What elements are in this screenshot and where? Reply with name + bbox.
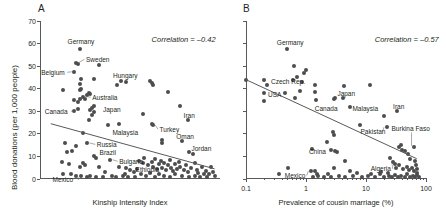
panel-a-data-point bbox=[168, 158, 172, 162]
panel-a-country-label: Bulgaria bbox=[119, 158, 143, 165]
panel-a-data-point bbox=[178, 104, 182, 108]
panel-b-x-tick-label: 0.1 bbox=[235, 185, 257, 192]
panel-a-data-point bbox=[85, 141, 89, 145]
panel-b-x-tick-minor bbox=[282, 178, 283, 180]
panel-a-y-tick bbox=[37, 111, 40, 112]
panel-b-data-point bbox=[311, 175, 315, 179]
panel-a-y-tick-label: 40 bbox=[20, 85, 36, 92]
panel-a-data-point bbox=[67, 162, 71, 166]
panel-b-data-point bbox=[332, 133, 336, 137]
panel-b-country-label: Japan bbox=[337, 90, 355, 97]
panel-b-data-point bbox=[315, 172, 319, 176]
panel-a-correlation-annotation: Correlation = –0.42 bbox=[152, 35, 216, 44]
panel-b-y-tick bbox=[243, 156, 246, 157]
panel-a-data-point bbox=[79, 77, 83, 81]
panel-b-country-label: Czech Rep. bbox=[271, 78, 305, 85]
panel-b-data-point bbox=[368, 83, 372, 87]
panel-b-data-point bbox=[337, 174, 341, 178]
panel-a-country-label: Japan bbox=[103, 106, 121, 113]
panel-a-data-point bbox=[177, 160, 181, 164]
panel-a-y-axis bbox=[40, 21, 41, 179]
panel-b-x-tick-minor bbox=[334, 178, 335, 180]
panel-a-data-point bbox=[124, 80, 128, 84]
panel-a-data-point bbox=[61, 88, 65, 92]
panel-b-correlation-annotation: Correlation = –0.57 bbox=[375, 35, 439, 44]
panel-a-data-point bbox=[162, 174, 166, 178]
panel-a-data-point bbox=[88, 174, 92, 178]
panel-a-data-point bbox=[184, 163, 188, 167]
panel-a-data-point bbox=[141, 112, 145, 116]
panel-b-data-point bbox=[343, 175, 347, 179]
panel-b-data-point bbox=[388, 156, 392, 160]
panel-a-data-point bbox=[94, 175, 98, 179]
panel-b-x-tick-minor bbox=[402, 178, 403, 180]
panel-b-data-point bbox=[262, 99, 266, 103]
panel-a-data-point bbox=[117, 165, 121, 169]
panel-b-data-point bbox=[382, 175, 386, 179]
panel-b-country-label: Burkina Faso bbox=[392, 125, 430, 132]
panel-a-country-label: Mexico bbox=[53, 176, 74, 183]
panel-b-y-tick bbox=[243, 43, 246, 44]
panel-b-data-point bbox=[285, 47, 289, 51]
panel-b-data-point bbox=[399, 143, 403, 147]
panel-a-data-point bbox=[92, 77, 96, 81]
panel-a-data-point bbox=[101, 175, 105, 179]
panel-b-y-axis bbox=[246, 21, 247, 179]
panel-b-trendline-layer bbox=[246, 21, 426, 179]
panel-b-y-tick bbox=[243, 111, 246, 112]
panel-a-letter: A bbox=[38, 3, 45, 14]
panel-b-data-point bbox=[412, 145, 416, 149]
panel-b-data-point bbox=[313, 90, 317, 94]
figure-container: A Blood donations (per 1,000 people) Ger… bbox=[0, 0, 446, 219]
panel-b-data-point bbox=[325, 140, 329, 144]
panel-b-x-tick-label: 1 bbox=[295, 185, 317, 192]
panel-a-country-label: Malaysia bbox=[112, 129, 138, 136]
panel-a-data-point bbox=[72, 109, 76, 113]
panel-a-y-tick bbox=[37, 156, 40, 157]
panel-b-x-tick-major bbox=[306, 178, 307, 182]
panel-b-y-tick bbox=[243, 21, 246, 22]
panel-b-data-point bbox=[298, 89, 302, 93]
panel-a-data-point bbox=[74, 144, 78, 148]
panel-a-y-tick bbox=[37, 88, 40, 89]
panel-a-country-label: Iran bbox=[184, 112, 195, 119]
panel-a-y-tick bbox=[37, 21, 40, 22]
panel-a-country-label: Turkey bbox=[160, 126, 180, 133]
panel-b-country-label: Malaysia bbox=[352, 105, 378, 112]
panel-b-data-point bbox=[382, 114, 386, 118]
panel-b-data-point bbox=[406, 152, 410, 156]
panel-b-data-point bbox=[351, 174, 355, 178]
panel-b-data-point bbox=[369, 172, 373, 176]
panel-a-data-point bbox=[173, 172, 177, 176]
panel-a-data-point bbox=[70, 149, 74, 153]
panel-b-x-tick-minor bbox=[423, 178, 424, 180]
panel-b-data-point bbox=[358, 123, 362, 127]
panel-a-y-tick-label: 30 bbox=[20, 108, 36, 115]
panel-a-data-point bbox=[151, 83, 155, 87]
panel-a-country-label: Hungary bbox=[113, 72, 138, 79]
panel-a-y-tick-label: 0 bbox=[20, 176, 36, 183]
panel-b-letter: B bbox=[243, 3, 250, 14]
panel-a-data-point bbox=[76, 107, 80, 111]
panel-a-country-label: Oman bbox=[176, 133, 194, 140]
panel-b-data-point bbox=[262, 91, 266, 95]
panel-a-data-point bbox=[81, 131, 85, 135]
panel-b-data-point bbox=[329, 148, 333, 152]
panel-b-data-point bbox=[343, 159, 347, 163]
panel-b-x-tick-label: 100 bbox=[415, 185, 437, 192]
panel-b-x-tick-major bbox=[426, 178, 427, 182]
panel-a-country-label: Australia bbox=[92, 94, 117, 101]
panel-b-x-tick-minor bbox=[347, 178, 348, 180]
panel-b-y-tick bbox=[243, 88, 246, 89]
panel-b-data-point bbox=[355, 171, 359, 175]
panel-a-data-point bbox=[193, 161, 197, 165]
panel-a-data-point bbox=[63, 141, 67, 145]
panel-a-data-point bbox=[65, 150, 69, 154]
panel-a-y-tick bbox=[37, 133, 40, 134]
panel-a-country-label: Ethiopia bbox=[136, 166, 160, 173]
panel-a-data-point bbox=[78, 82, 82, 86]
panel-b-data-point bbox=[333, 96, 337, 100]
panel-b-data-point bbox=[335, 150, 339, 154]
panel-a-data-point bbox=[160, 141, 164, 145]
panel-a-y-tick-label: 10 bbox=[20, 153, 36, 160]
